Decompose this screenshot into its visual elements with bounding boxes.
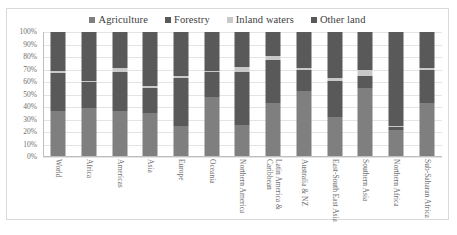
bar-slot [381, 32, 412, 157]
bar-segment [419, 103, 434, 157]
stacked-bar[interactable] [174, 32, 189, 157]
bar-segment [143, 88, 158, 113]
y-axis-tick-label: 50% [23, 91, 37, 99]
x-axis-tick-label: Americas [115, 159, 124, 188]
bar-segment [82, 82, 97, 108]
bar-slot [74, 32, 105, 157]
y-axis-tick-label: 80% [23, 53, 37, 61]
bar-slot [196, 32, 227, 157]
y-axis-tick-label: 10% [23, 141, 37, 149]
bar-segment [82, 108, 97, 157]
stacked-bar[interactable] [296, 32, 311, 157]
bar-slot [104, 32, 135, 157]
x-axis-tick-label: Asia [146, 159, 155, 173]
bar-segment [327, 32, 342, 78]
bar-slot [289, 32, 320, 157]
bar-slot [319, 32, 350, 157]
x-axis-label-slot: Northern America [227, 159, 258, 235]
bar-slot [43, 32, 74, 157]
x-axis-tick-label: World [54, 159, 63, 178]
bar-segment [388, 130, 403, 158]
y-axis-tick-label: 100% [20, 28, 38, 36]
stacked-bar[interactable] [204, 32, 219, 157]
bar-segment [235, 32, 250, 67]
x-axis-tick-label: Northern Africa [392, 159, 401, 207]
plot-area [43, 32, 442, 157]
x-axis-tick-label: Northern America [238, 159, 247, 213]
y-axis-tick-label: 0% [27, 153, 37, 161]
stacked-bar[interactable] [235, 32, 250, 157]
bar-segment [419, 70, 434, 104]
y-axis-tick-label: 20% [23, 128, 37, 136]
bar-segment [51, 111, 66, 157]
bar-segment [235, 72, 250, 125]
x-axis-line [43, 156, 442, 157]
stacked-bar[interactable] [143, 32, 158, 157]
x-axis-label-slot: Oceania [196, 159, 227, 235]
x-axis-label-slot: Europe [166, 159, 197, 235]
legend-swatch-icon [311, 17, 317, 23]
x-axis-label-slot: Asia [135, 159, 166, 235]
bar-segment [51, 32, 66, 71]
bar-segment [296, 70, 311, 91]
bar-segment [358, 76, 373, 89]
legend-item[interactable]: Agriculture [89, 15, 148, 26]
bar-segment [266, 32, 281, 56]
stacked-bar[interactable] [266, 32, 281, 157]
bar-segment [266, 60, 281, 104]
bar-segment [112, 32, 127, 68]
bar-segment [235, 125, 250, 158]
y-axis-tick-label: 70% [23, 66, 37, 74]
x-axis-label-slot: Northern Africa [381, 159, 412, 235]
x-axis-labels: WorldAfricaAmericasAsiaEuropeOceaniaNort… [43, 159, 442, 235]
y-axis-tick-label: 90% [23, 41, 37, 49]
stacked-bar[interactable] [327, 32, 342, 157]
legend-swatch-icon [227, 17, 233, 23]
x-axis-label-slot: Latin America & Caribbean [258, 159, 289, 235]
bar-segment [143, 113, 158, 157]
legend-item[interactable]: Other land [311, 15, 366, 26]
x-axis-tick-label: Latin America & Caribbean [265, 159, 282, 210]
x-axis-label-slot: Americas [104, 159, 135, 235]
bar-segment [112, 111, 127, 157]
bar-slot [135, 32, 166, 157]
stacked-bar[interactable] [388, 32, 403, 157]
x-axis-tick-label: Europe [177, 159, 186, 181]
bar-segment [204, 72, 219, 97]
stacked-bar[interactable] [112, 32, 127, 157]
stacked-bar[interactable] [82, 32, 97, 157]
bar-segment [296, 32, 311, 68]
bar-slot [227, 32, 258, 157]
stacked-bar[interactable] [51, 32, 66, 157]
legend-item[interactable]: Inland waters [227, 15, 294, 26]
legend-swatch-icon [165, 17, 171, 23]
x-axis-label-slot: East-South East Asia [319, 159, 350, 235]
legend-item[interactable]: Forestry [165, 15, 210, 26]
bar-slot [350, 32, 381, 157]
x-axis-label-slot: Australia & NZ [289, 159, 320, 235]
bar-segment [51, 73, 66, 111]
bar-segment [204, 97, 219, 157]
x-axis-label-slot: Sub-Saharan Africa [411, 159, 442, 235]
y-axis-tick-label: 60% [23, 78, 37, 86]
bar-segment [327, 81, 342, 117]
x-axis-tick-label: Oceania [207, 159, 216, 184]
bar-segment [174, 32, 189, 76]
y-axis-tick-label: 40% [23, 103, 37, 111]
bar-segment [296, 91, 311, 157]
bar-series-group [43, 32, 442, 157]
bar-segment [112, 72, 127, 111]
legend-item-label: Forestry [174, 15, 210, 26]
bar-segment [82, 32, 97, 81]
stacked-bar[interactable] [419, 32, 434, 157]
bar-slot [411, 32, 442, 157]
x-axis-tick-label: Southern Asia [361, 159, 370, 201]
stacked-bar[interactable] [358, 32, 373, 157]
y-axis-tick-label: 30% [23, 116, 37, 124]
bar-segment [419, 32, 434, 68]
chart-container: AgricultureForestryInland watersOther la… [6, 8, 449, 220]
gridline [43, 157, 442, 158]
x-axis-label-slot: World [43, 159, 74, 235]
legend-swatch-icon [89, 17, 95, 23]
bar-segment [358, 32, 373, 70]
